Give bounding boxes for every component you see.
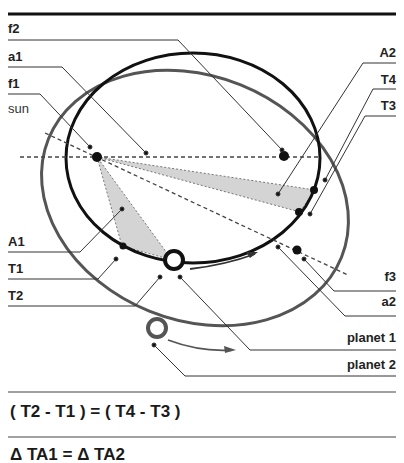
label-A1: A1 [8, 234, 25, 249]
leaders-left [8, 40, 284, 306]
label-a2: a2 [382, 294, 396, 309]
point-T3 [295, 208, 303, 216]
label-planet-1: planet 1 [347, 330, 396, 345]
planet-1 [165, 251, 183, 269]
sun-focus [92, 152, 102, 162]
arrowhead-planet-2-icon [224, 346, 236, 353]
label-f3: f3 [384, 269, 396, 284]
label-T4: T4 [381, 72, 397, 87]
equation-equal-areas: Δ TA1 = Δ TA2 [10, 445, 125, 463]
equation-time-intervals: ( T2 - T1 ) = ( T4 - T3 ) [10, 402, 180, 422]
point-T1 [120, 243, 127, 250]
planet-2 [148, 319, 166, 337]
focus-f2 [279, 151, 289, 161]
orbit-planet-2 [3, 26, 387, 371]
label-sun: sun [8, 101, 29, 116]
kepler-diagram: f2 a1 f1 sun A1 T1 T2 A2 T4 T3 f3 a2 pla… [0, 0, 404, 463]
point-T4 [310, 186, 318, 194]
label-f1: f1 [8, 76, 20, 91]
arrow-planet-2 [168, 340, 232, 350]
label-T3: T3 [381, 98, 396, 113]
label-planet-2: planet 2 [347, 357, 396, 372]
focus-f3 [293, 246, 302, 255]
label-a1: a1 [8, 49, 22, 64]
label-T1: T1 [8, 261, 23, 276]
label-A2: A2 [379, 45, 396, 60]
label-T2: T2 [8, 288, 23, 303]
label-f2: f2 [8, 21, 20, 36]
